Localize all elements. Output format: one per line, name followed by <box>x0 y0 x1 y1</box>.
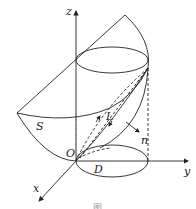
surface-right-edge <box>125 15 149 68</box>
surface-front-curve <box>17 68 148 118</box>
region-label: D <box>94 164 103 175</box>
y-axis-label: y <box>184 166 190 177</box>
surface-top-edge <box>17 15 125 113</box>
normal-vector <box>126 122 139 132</box>
z-axis-label: z <box>66 6 72 17</box>
diagram-canvas: z y x O S L n D 图 <box>0 0 196 209</box>
dashed-line-3 <box>78 148 110 158</box>
origin-label: O <box>66 148 75 159</box>
x-axis-label: x <box>33 183 39 194</box>
region-d-lower <box>76 161 148 177</box>
curve-label: L <box>106 111 113 122</box>
figure-caption: 图 <box>93 204 102 209</box>
normal-label: n <box>141 135 148 146</box>
x-axis <box>39 161 76 201</box>
surface-label: S <box>36 121 44 132</box>
surface-diagram <box>0 0 196 209</box>
top-ellipse <box>76 47 148 73</box>
region-d-upper <box>76 145 148 161</box>
dashed-line-2 <box>80 68 148 158</box>
